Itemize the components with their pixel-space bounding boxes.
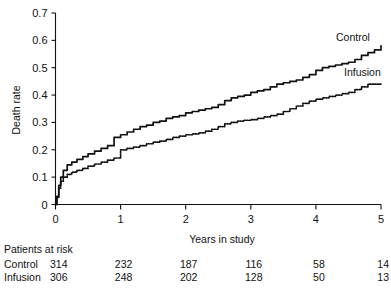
risk-value: 306 xyxy=(50,271,68,283)
x-tick-labels: 012345 xyxy=(52,213,384,225)
curve-infusion xyxy=(56,84,382,204)
y-tick-marks xyxy=(52,13,56,205)
risk-value: 14 xyxy=(377,258,389,270)
survival-curve-plot: 00.10.20.30.40.50.60.7 012345 Death rate… xyxy=(0,0,391,292)
axes-group xyxy=(52,13,382,210)
x-tick-label: 0 xyxy=(52,213,58,225)
risk-value: 116 xyxy=(245,258,262,270)
curve-control xyxy=(56,46,382,205)
risk-value: 202 xyxy=(180,271,198,283)
risk-row-label: Control xyxy=(4,258,38,270)
y-tick-label: 0.4 xyxy=(32,89,47,101)
x-tick-label: 5 xyxy=(378,213,384,225)
x-tick-label: 4 xyxy=(313,213,319,225)
y-tick-labels: 00.10.20.30.40.50.60.7 xyxy=(32,7,47,211)
risk-value: 248 xyxy=(115,271,133,283)
y-tick-label: 0.3 xyxy=(32,116,47,128)
risk-value: 50 xyxy=(313,271,325,283)
risk-table-heading: Patients at risk xyxy=(4,243,74,255)
series-label-infusion: Infusion xyxy=(344,66,381,78)
risk-row: Infusion3062482021285013 xyxy=(4,271,389,283)
risk-row-label: Infusion xyxy=(4,271,41,283)
x-tick-label: 1 xyxy=(118,213,124,225)
y-tick-label: 0 xyxy=(41,199,47,211)
series-group xyxy=(56,46,382,205)
x-axis-title: Years in study xyxy=(189,233,255,245)
y-tick-label: 0.6 xyxy=(32,34,47,46)
risk-value: 58 xyxy=(313,258,325,270)
risk-value: 128 xyxy=(245,271,263,283)
y-tick-label: 0.2 xyxy=(32,144,47,156)
y-tick-label: 0.7 xyxy=(32,7,47,19)
risk-value: 314 xyxy=(50,258,68,270)
risk-row: Control3142321871165814 xyxy=(4,258,389,270)
series-label-control: Control xyxy=(336,31,370,43)
x-tick-label: 2 xyxy=(183,213,189,225)
y-tick-label: 0.5 xyxy=(32,62,47,74)
risk-value: 13 xyxy=(377,271,389,283)
x-tick-marks xyxy=(56,205,382,210)
y-axis-title: Death rate xyxy=(10,85,22,134)
chart-figure: 00.10.20.30.40.50.60.7 012345 Death rate… xyxy=(0,0,391,292)
risk-table: Control3142321871165814Infusion306248202… xyxy=(4,258,389,283)
risk-value: 187 xyxy=(180,258,198,270)
risk-value: 232 xyxy=(115,258,133,270)
y-tick-label: 0.1 xyxy=(32,171,47,183)
x-tick-label: 3 xyxy=(248,213,254,225)
